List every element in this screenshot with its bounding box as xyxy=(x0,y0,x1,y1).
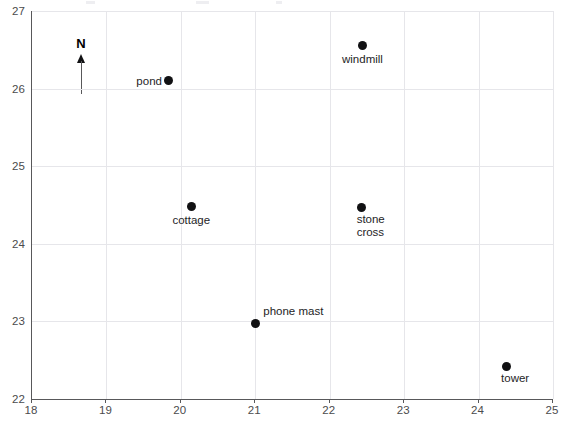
gridline-vertical xyxy=(255,11,256,399)
data-point-label: phone mast xyxy=(263,304,323,317)
gridline-horizontal xyxy=(32,244,553,245)
x-axis-tick-label: 19 xyxy=(99,404,112,416)
x-axis-tick-label: 25 xyxy=(546,404,559,416)
y-axis-tick-label: 24 xyxy=(12,238,25,250)
gridline-vertical xyxy=(553,11,554,399)
x-axis: 1819202122232425 xyxy=(31,399,552,423)
x-axis-tick xyxy=(31,399,32,403)
x-axis-tick xyxy=(254,399,255,403)
y-axis-tick-label: 22 xyxy=(12,393,25,405)
gridline-horizontal xyxy=(32,321,553,322)
top-crop-artifacts xyxy=(0,0,567,6)
gridline-horizontal xyxy=(32,11,553,12)
data-point-marker[interactable] xyxy=(357,203,366,212)
x-axis-tick-label: 18 xyxy=(25,404,38,416)
y-axis-tick-label: 23 xyxy=(12,315,25,327)
data-point-label: windmill xyxy=(342,53,383,66)
gridline-horizontal xyxy=(32,89,553,90)
data-point-marker[interactable] xyxy=(164,76,173,85)
gridline-vertical xyxy=(479,11,480,399)
scatter-chart: N pondwindmillcottagestone crossphone ma… xyxy=(0,0,567,431)
plot-area: N pondwindmillcottagestone crossphone ma… xyxy=(31,11,553,400)
x-axis-tick xyxy=(105,399,106,403)
x-axis-tick xyxy=(552,399,553,403)
x-axis-tick xyxy=(329,399,330,403)
data-point-marker[interactable] xyxy=(502,362,511,371)
x-axis-tick xyxy=(478,399,479,403)
north-letter-label: N xyxy=(68,37,94,51)
data-point-marker[interactable] xyxy=(358,41,367,50)
x-axis-tick xyxy=(403,399,404,403)
x-axis-tick-label: 20 xyxy=(173,404,186,416)
gridline-vertical xyxy=(106,11,107,399)
gridline-vertical xyxy=(330,11,331,399)
data-point-label: pond xyxy=(136,75,162,88)
gridline-vertical xyxy=(404,11,405,399)
x-axis-tick-label: 21 xyxy=(248,404,261,416)
data-point-label: stone cross xyxy=(357,213,385,238)
data-point-label: tower xyxy=(501,372,529,385)
x-axis-tick-label: 23 xyxy=(397,404,410,416)
gridline-horizontal xyxy=(32,166,553,167)
data-point-marker[interactable] xyxy=(251,319,260,328)
y-axis-tick-label: 27 xyxy=(12,5,25,17)
y-axis: 222324252627 xyxy=(0,11,31,399)
data-point-label: cottage xyxy=(172,214,210,227)
gridline-vertical xyxy=(181,11,182,399)
y-axis-tick-label: 26 xyxy=(12,83,25,95)
x-axis-tick-label: 24 xyxy=(471,404,484,416)
x-axis-tick-label: 22 xyxy=(322,404,335,416)
data-point-marker[interactable] xyxy=(187,202,196,211)
y-axis-tick-label: 25 xyxy=(12,160,25,172)
x-axis-tick xyxy=(180,399,181,403)
